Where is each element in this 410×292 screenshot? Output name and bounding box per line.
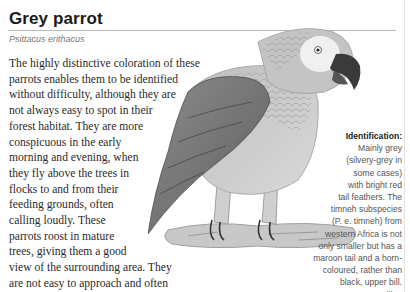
description-line: parrots enables them to be identified — [9, 72, 354, 88]
page-edge-divider — [404, 0, 405, 292]
identification-line: some cases) — [300, 167, 402, 179]
identification-line: (P. e. timneh) from — [300, 215, 402, 227]
identification-line: only smaller but has a — [300, 240, 402, 252]
page-title: Grey parrot — [9, 9, 103, 29]
identification-line: maroon tail and a horn- — [300, 252, 402, 264]
identification-line: coloured, rather than — [300, 264, 402, 276]
identification-line: Sexes are alike. — [300, 289, 402, 292]
latin-name: Psittacus erithacus — [9, 34, 85, 44]
description-line: The highly distinctive coloration of the… — [9, 56, 354, 72]
field-guide-page: Grey parrot Psittacus erithacus — [0, 0, 410, 292]
identification-line: black, upper bill. — [300, 276, 402, 288]
description-line: not always easy to spot in their — [9, 103, 354, 119]
identification-line: (silvery-grey in — [300, 154, 402, 166]
identification-line: tail feathers. The — [300, 191, 402, 203]
description-line: without difficulty, although they are — [9, 87, 354, 103]
identification-line: Mainly grey — [300, 142, 402, 154]
identification-line: timneh subspecies — [300, 203, 402, 215]
identification-line: with bright red — [300, 179, 402, 191]
identification-label: Identification: — [300, 130, 402, 142]
identification-caption: Identification: Mainly grey (silvery-gre… — [300, 130, 402, 292]
identification-line: western Africa is not — [300, 228, 402, 240]
